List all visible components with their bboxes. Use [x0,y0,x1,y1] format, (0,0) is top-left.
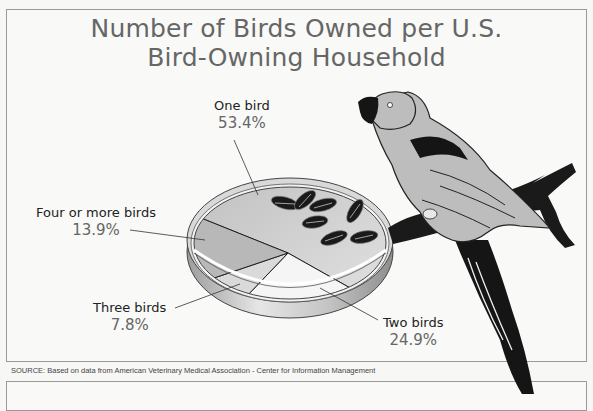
label-two-birds: Two birds 24.9% [383,315,444,350]
label-four-plus-pct: 13.9% [36,221,156,240]
label-four-plus: Four or more birds 13.9% [36,205,156,240]
source-note: SOURCE: Based on data from American Vete… [11,366,375,375]
label-two-birds-name: Two birds [383,315,444,331]
label-two-birds-pct: 24.9% [383,331,444,350]
label-three-birds-name: Three birds [93,300,166,316]
label-one-bird-pct: 53.4% [214,114,270,133]
label-one-bird-name: One bird [214,98,270,114]
label-three-birds: Three birds 7.8% [93,300,166,335]
label-three-birds-pct: 7.8% [93,316,166,335]
label-one-bird: One bird 53.4% [214,98,270,133]
label-four-plus-name: Four or more birds [36,205,156,221]
